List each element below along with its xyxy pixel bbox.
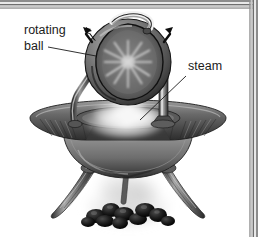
label-rotating-ball-line1: rotating bbox=[24, 23, 66, 37]
label-steam: steam bbox=[188, 59, 222, 73]
rotating-ball bbox=[85, 19, 171, 105]
label-rotating-ball-line2: ball bbox=[24, 39, 43, 53]
aeolipile-figure: rotating ball steam bbox=[0, 0, 258, 237]
aeolipile-illustration: rotating ball steam bbox=[0, 0, 258, 237]
